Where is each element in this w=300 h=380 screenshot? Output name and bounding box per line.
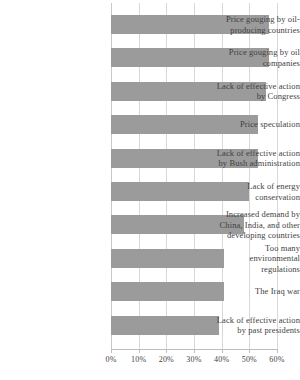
category-label-line: Price gouging by oil- bbox=[194, 14, 300, 25]
x-tick-mark bbox=[166, 349, 167, 353]
x-tick-mark bbox=[111, 349, 112, 353]
category-label-line: Price speculation bbox=[194, 119, 300, 130]
category-label: Lack of effective actionby Bush administ… bbox=[194, 148, 300, 169]
category-label-line: Lack of effective action bbox=[194, 148, 300, 159]
category-label-line: environmental bbox=[194, 253, 300, 264]
category-label-line: Lack of effective action bbox=[194, 81, 300, 92]
x-tick-mark bbox=[249, 349, 250, 353]
category-label: Increased demand byChina, India, and oth… bbox=[194, 209, 300, 241]
category-label-line: developing countries bbox=[194, 230, 300, 241]
category-label-line: Price gouging by oil bbox=[194, 47, 300, 58]
category-label-line: by Bush administration bbox=[194, 158, 300, 169]
category-label-line: by past presidents bbox=[194, 325, 300, 336]
category-label: Lack of energyconservation bbox=[194, 181, 300, 202]
category-label-line: Lack of effective action bbox=[194, 315, 300, 326]
category-label: Too manyenvironmentalregulations bbox=[194, 243, 300, 275]
category-label: Price speculation bbox=[194, 119, 300, 130]
category-label: Price gouging by oil-producing countries bbox=[194, 14, 300, 35]
category-label-line: conservation bbox=[194, 192, 300, 203]
category-label-line: companies bbox=[194, 58, 300, 69]
category-label: Price gouging by oilcompanies bbox=[194, 47, 300, 68]
category-label-line: by Congress bbox=[194, 91, 300, 102]
category-label-line: China, India, and other bbox=[194, 220, 300, 231]
category-label: The Iraq war bbox=[194, 286, 300, 297]
category-label-line: The Iraq war bbox=[194, 286, 300, 297]
category-label-line: Too many bbox=[194, 243, 300, 254]
category-label: Lack of effective actionby Congress bbox=[194, 81, 300, 102]
x-tick-mark bbox=[222, 349, 223, 353]
category-label: Lack of effective actionby past presiden… bbox=[194, 315, 300, 336]
category-label-line: Increased demand by bbox=[194, 209, 300, 220]
x-tick-mark bbox=[139, 349, 140, 353]
x-tick-label: 60% bbox=[257, 355, 297, 364]
x-tick-mark bbox=[277, 349, 278, 353]
category-label-line: regulations bbox=[194, 264, 300, 275]
horizontal-bar-chart: 0%10%20%30%40%50%60%Price gouging by oil… bbox=[0, 0, 300, 380]
category-label-line: producing countries bbox=[194, 25, 300, 36]
x-tick-mark bbox=[194, 349, 195, 353]
category-label-line: Lack of energy bbox=[194, 181, 300, 192]
